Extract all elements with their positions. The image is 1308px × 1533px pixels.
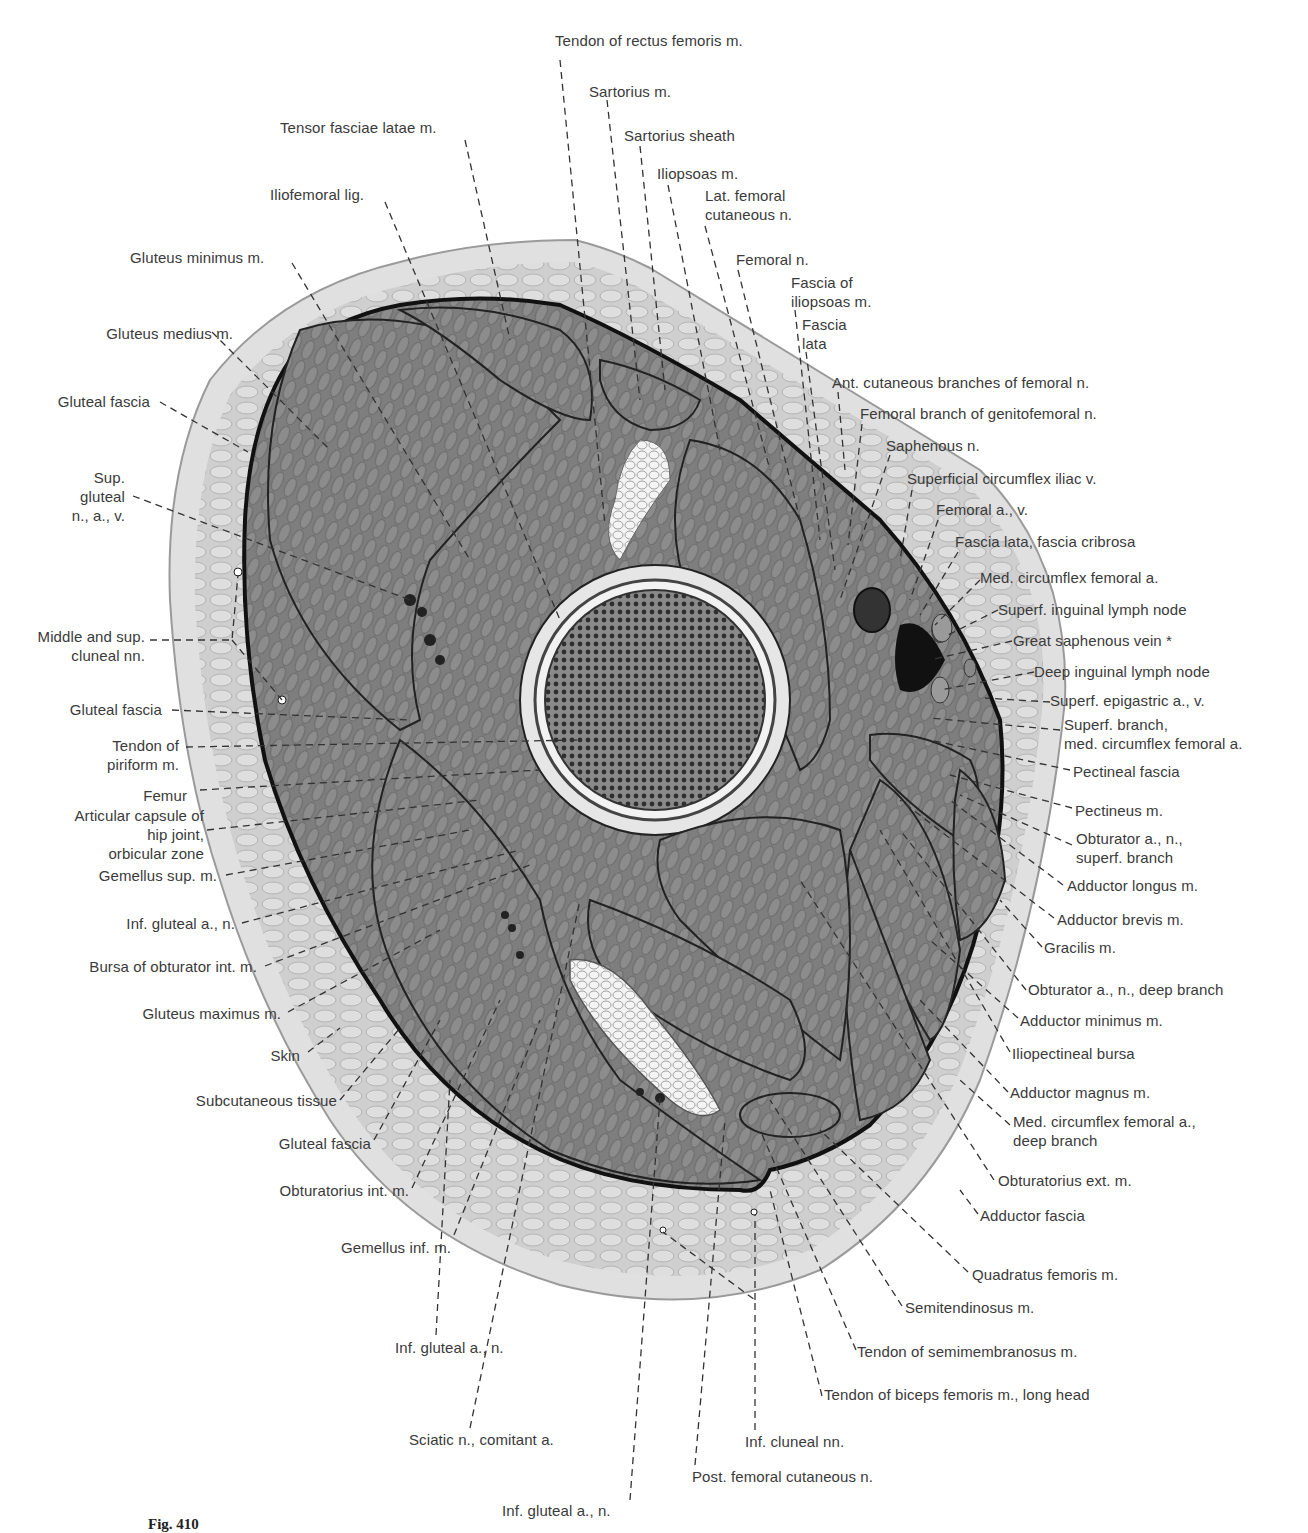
label-gluteus-medius: Gluteus medius m. <box>106 324 233 343</box>
label-obturator-deep-branch: Obturator a., n., deep branch <box>1028 980 1224 999</box>
label-lat-femoral-cutaneous: Lat. femoral cutaneous n. <box>705 186 792 224</box>
label-iliopectineal-bursa: Iliopectineal bursa <box>1012 1044 1135 1063</box>
label-superf-inguinal-lymph-node: Superf. inguinal lymph node <box>998 600 1187 619</box>
label-sciatic-comitant: Sciatic n., comitant a. <box>409 1430 554 1449</box>
label-fascia-lata-cribrosa: Fascia lata, fascia cribrosa <box>955 532 1135 551</box>
label-obturatorius-int: Obturatorius int. m. <box>279 1181 409 1200</box>
femoral-artery <box>854 588 890 632</box>
label-superf-epigastric: Superf. epigastric a., v. <box>1050 691 1205 710</box>
label-adductor-brevis: Adductor brevis m. <box>1057 910 1184 929</box>
label-inf-gluteal-bottom-1: Inf. gluteal a., n. <box>395 1338 504 1357</box>
label-gemellus-inf: Gemellus inf. m. <box>341 1238 451 1257</box>
label-gluteus-minimus: Gluteus minimus m. <box>130 248 264 267</box>
label-saphenous-n: Saphenous n. <box>886 436 980 455</box>
label-subcutaneous-tissue: Subcutaneous tissue <box>196 1091 337 1110</box>
label-gluteal-fascia-3: Gluteal fascia <box>279 1134 371 1153</box>
label-adductor-minimus: Adductor minimus m. <box>1020 1011 1163 1030</box>
label-femoral-n: Femoral n. <box>736 250 809 269</box>
label-sartorius: Sartorius m. <box>589 82 671 101</box>
label-great-saphenous-vein: Great saphenous vein * <box>1013 631 1172 650</box>
label-articular-capsule: Articular capsule of hip joint, orbicula… <box>74 806 204 863</box>
label-post-femoral-cutaneous: Post. femoral cutaneous n. <box>692 1467 873 1486</box>
label-adductor-fascia: Adductor fascia <box>980 1206 1085 1225</box>
label-superf-branch-med-circumflex: Superf. branch, med. circumflex femoral … <box>1064 715 1242 753</box>
label-semitendinosus: Semitendinosus m. <box>905 1298 1034 1317</box>
label-femoral-branch-genitofemoral: Femoral branch of genitofemoral n. <box>860 404 1097 423</box>
label-med-circumflex-femoral-a: Med. circumflex femoral a. <box>980 568 1158 587</box>
label-bursa-obturator-int: Bursa of obturator int. m. <box>89 957 257 976</box>
label-pectineus: Pectineus m. <box>1075 801 1163 820</box>
label-femur: Femur <box>143 786 187 805</box>
figure-caption: Fig. 410 <box>148 1516 199 1533</box>
label-tensor-fasciae-latae: Tensor fasciae latae m. <box>280 118 437 137</box>
label-fascia-iliopsoas: Fascia of iliopsoas m. <box>791 273 871 311</box>
label-sup-gluteal: Sup. gluteal n., a., v. <box>72 468 125 525</box>
label-fascia-lata: Fascia lata <box>802 315 847 353</box>
cluneal-nerve-dot <box>234 568 242 576</box>
label-superficial-circumflex-iliac-v: Superficial circumflex iliac v. <box>907 469 1097 488</box>
label-gracilis: Gracilis m. <box>1044 938 1116 957</box>
label-tendon-biceps-long-head: Tendon of biceps femoris m., long head <box>824 1385 1090 1404</box>
label-obturator-superf-branch: Obturator a., n., superf. branch <box>1076 829 1183 867</box>
label-deep-inguinal-lymph-node: Deep inguinal lymph node <box>1034 662 1210 681</box>
label-tendon-rectus-femoris: Tendon of rectus femoris m. <box>555 31 743 50</box>
label-femoral-a-v: Femoral a., v. <box>936 500 1028 519</box>
label-skin: Skin <box>270 1046 300 1065</box>
label-gluteus-maximus: Gluteus maximus m. <box>143 1004 282 1023</box>
label-inf-cluneal: Inf. cluneal nn. <box>745 1432 844 1451</box>
label-tendon-piriform: Tendon of piriform m. <box>107 736 179 774</box>
femur-head <box>545 590 765 810</box>
label-sartorius-sheath: Sartorius sheath <box>624 126 735 145</box>
label-iliopsoas: Iliopsoas m. <box>657 164 738 183</box>
deep-inguinal-lymph-node <box>931 677 949 703</box>
label-med-circumflex-deep-branch: Med. circumflex femoral a., deep branch <box>1013 1112 1196 1150</box>
label-gluteal-fascia-2: Gluteal fascia <box>70 700 162 719</box>
label-adductor-longus: Adductor longus m. <box>1067 876 1198 895</box>
post-femoral-cutaneous-dot <box>751 1209 757 1215</box>
superf-epigastric-vessel <box>964 659 976 677</box>
label-tendon-semimembranosus: Tendon of semimembranosus m. <box>857 1342 1077 1361</box>
label-inf-gluteal-bottom-2: Inf. gluteal a., n. <box>502 1501 611 1520</box>
label-adductor-magnus: Adductor magnus m. <box>1010 1083 1150 1102</box>
label-quadratus-femoris: Quadratus femoris m. <box>972 1265 1118 1284</box>
label-ant-cutaneous-branches: Ant. cutaneous branches of femoral n. <box>832 373 1089 392</box>
label-inf-gluteal-left: Inf. gluteal a., n. <box>126 914 235 933</box>
label-gluteal-fascia-1: Gluteal fascia <box>58 392 150 411</box>
label-gemellus-sup: Gemellus sup. m. <box>99 866 217 885</box>
label-obturatorius-ext: Obturatorius ext. m. <box>998 1171 1132 1190</box>
label-iliofemoral-lig: Iliofemoral lig. <box>270 185 364 204</box>
label-pectineal-fascia: Pectineal fascia <box>1073 762 1180 781</box>
label-middle-sup-cluneal: Middle and sup. cluneal nn. <box>38 627 145 665</box>
